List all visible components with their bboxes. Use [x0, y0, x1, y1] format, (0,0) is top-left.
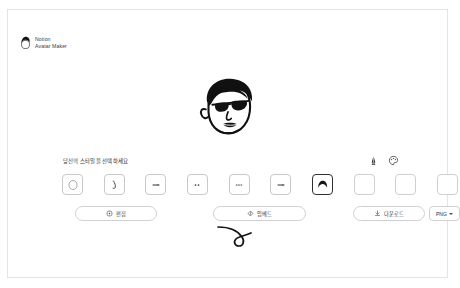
style-picker-title: 당신의 스타일을 선택하세요	[63, 157, 128, 165]
chevron-down-icon	[449, 213, 453, 215]
eyes-icon	[191, 179, 203, 191]
eyebrows-icon	[233, 179, 245, 191]
brush-icon[interactable]	[368, 155, 379, 166]
style-picker: 당신의 스타일을 선택하세요	[63, 154, 399, 167]
format-select[interactable]: PNG	[429, 206, 460, 221]
palette-icon[interactable]	[388, 155, 399, 166]
download-button[interactable]: 다운로드	[353, 206, 425, 221]
tile-accessory[interactable]	[354, 174, 375, 195]
face-shape-icon	[67, 179, 79, 191]
tile-face[interactable]	[62, 174, 83, 195]
tile-detail[interactable]	[395, 174, 416, 195]
dice-icon	[106, 210, 113, 217]
blank-icon	[400, 179, 412, 191]
style-picker-tools	[368, 155, 399, 166]
avatar-stage	[8, 67, 447, 149]
brand-text: Notion Avatar Maker	[35, 36, 67, 48]
brand-line-2: Avatar Maker	[35, 43, 67, 49]
style-tile-row	[62, 174, 458, 195]
nose-icon	[108, 179, 120, 191]
tile-hair[interactable]	[312, 174, 333, 195]
hair-icon	[316, 178, 329, 191]
edit-button-label: 편집	[116, 210, 126, 217]
download-icon	[374, 210, 381, 217]
edit-button[interactable]: 편집	[75, 206, 157, 221]
tile-eyes[interactable]	[187, 174, 208, 195]
code-icon	[247, 210, 254, 217]
notion-avatar-logo-icon	[20, 36, 31, 49]
download-button-label: 다운로드	[384, 210, 404, 217]
tile-nose[interactable]	[104, 174, 125, 195]
tile-eyebrows[interactable]	[229, 174, 250, 195]
blank-icon	[358, 179, 370, 191]
mouth-icon	[150, 179, 162, 191]
avatar-preview	[189, 69, 267, 147]
tile-glasses[interactable]	[270, 174, 291, 195]
embed-button-label: 임베드	[257, 210, 272, 217]
brand-logo[interactable]: Notion Avatar Maker	[20, 36, 67, 49]
format-select-value: PNG	[436, 211, 447, 217]
glasses-icon	[275, 179, 287, 191]
curl-swirl-decoration	[216, 222, 264, 250]
blank-icon	[441, 179, 453, 191]
tile-mouth[interactable]	[145, 174, 166, 195]
app-window: Notion Avatar Maker	[7, 9, 448, 278]
embed-button[interactable]: 임베드	[213, 206, 306, 221]
tile-beard[interactable]	[437, 174, 458, 195]
style-picker-header: 당신의 스타일을 선택하세요	[63, 154, 399, 167]
